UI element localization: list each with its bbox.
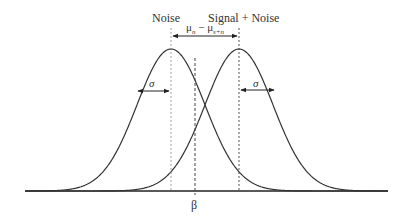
noise-label: Noise [152, 12, 180, 24]
mu-n: μn [186, 21, 195, 33]
mu-sn: μs+n [207, 21, 224, 33]
noise-distribution-curve [25, 49, 388, 191]
sigma-label-left: σ [149, 78, 154, 89]
criterion-beta-label: β [191, 199, 197, 211]
signal-noise-distribution-curve [25, 49, 388, 191]
sigma-label-right: σ [253, 78, 258, 89]
mean-difference-label: μn − μs+n [186, 22, 224, 36]
